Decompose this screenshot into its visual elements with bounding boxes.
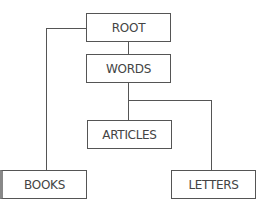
edge-root-books-v: [46, 28, 47, 170]
node-root: ROOT: [86, 13, 171, 42]
node-books-label: BOOKS: [24, 178, 65, 192]
edge-words-letters-h: [128, 100, 212, 101]
node-letters-label: LETTERS: [188, 178, 238, 192]
edge-words-down: [128, 82, 129, 120]
node-root-label: ROOT: [112, 21, 145, 35]
edge-root-words: [128, 42, 129, 54]
node-articles: ARTICLES: [87, 120, 172, 149]
node-articles-label: ARTICLES: [102, 128, 156, 142]
edge-words-letters-v: [211, 100, 212, 170]
edge-root-books-h: [46, 28, 86, 29]
node-letters: LETTERS: [171, 170, 256, 199]
node-books: BOOKS: [0, 170, 87, 199]
node-words: WORDS: [86, 54, 171, 83]
node-words-label: WORDS: [106, 62, 151, 76]
